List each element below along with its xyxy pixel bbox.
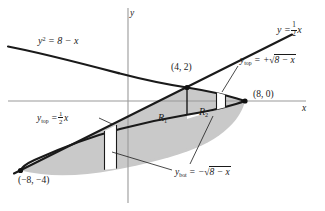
- leader-ytop-line: [99, 118, 112, 124]
- label-point-8-0: (8, 0): [253, 90, 274, 100]
- label-y-bot-sqrt: ybot = −√8 − x: [175, 168, 231, 179]
- sample-strip-r1: [105, 125, 117, 170]
- label-axis-x: x: [302, 104, 306, 114]
- point-8-0: [242, 98, 247, 103]
- math-figure: y2 = 8 − x y =12x ytop = +√8 − x ytop =1…: [0, 0, 325, 211]
- label-line-equation: y =12x: [277, 22, 302, 38]
- label-region-r1: R1: [158, 113, 167, 124]
- label-region-r2: R2: [199, 107, 208, 118]
- fraction-one-half-left: 12: [58, 110, 63, 125]
- sample-strip-r2: [217, 93, 226, 110]
- point-4-2: [184, 85, 189, 90]
- label-point-neg8-neg4: (−8, −4): [18, 176, 49, 186]
- fraction-one-half: 12: [291, 22, 297, 38]
- label-point-4-2: (4, 2): [171, 63, 192, 73]
- label-curve-equation: y2 = 8 − x: [38, 36, 78, 46]
- leader-ytop-sqrt: [222, 66, 238, 92]
- radical-symbol-bot: √8 − x: [204, 168, 230, 178]
- label-y-top-sqrt: ytop = +√8 − x: [240, 56, 296, 67]
- label-axis-y: y: [130, 9, 134, 19]
- point-neg8-neg4: [18, 168, 23, 173]
- radical-symbol: √8 − x: [269, 56, 295, 66]
- label-y-top-line: ytop =12x: [37, 110, 68, 125]
